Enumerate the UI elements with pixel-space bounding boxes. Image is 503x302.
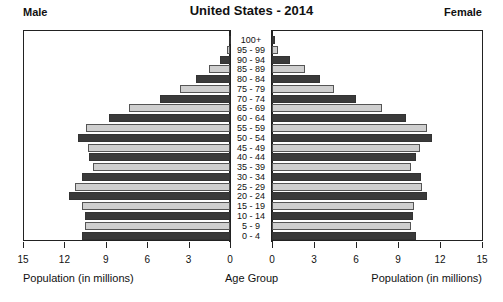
male-bar [93, 163, 230, 171]
male-bar [180, 85, 230, 93]
male-bar [88, 144, 230, 152]
male-bar [220, 56, 230, 64]
female-bar [272, 104, 382, 112]
male-bar [85, 212, 230, 220]
age-group-label: 80 - 84 [231, 74, 271, 84]
age-group-label: 45 - 49 [231, 143, 271, 153]
x-tick-label: 12 [52, 254, 76, 265]
x-tick [189, 242, 190, 248]
age-group-label: 95 - 99 [231, 45, 271, 55]
x-tick-label: 12 [428, 254, 452, 265]
male-bar [196, 75, 231, 83]
female-bar [272, 232, 416, 240]
age-group-label: 0 - 4 [231, 231, 271, 241]
male-bar [89, 153, 230, 161]
male-bar [109, 114, 230, 122]
female-bar [272, 46, 278, 54]
age-group-label: 55 - 59 [231, 123, 271, 133]
female-bar [272, 173, 421, 181]
female-bar [272, 95, 356, 103]
female-bar [272, 192, 427, 200]
chart-title: United States - 2014 [0, 3, 503, 18]
age-group-label: 35 - 39 [231, 162, 271, 172]
age-group-label: 60 - 64 [231, 113, 271, 123]
age-group-label: 65 - 69 [231, 103, 271, 113]
x-tick [23, 242, 24, 248]
male-bar [78, 134, 230, 142]
x-tick [482, 242, 483, 248]
x-tick [356, 242, 357, 248]
x-tick [106, 242, 107, 248]
age-group-label: 75 - 79 [231, 84, 271, 94]
male-bar [82, 232, 230, 240]
x-tick-label: 9 [94, 254, 118, 265]
x-tick-label: 6 [344, 254, 368, 265]
female-bar [272, 65, 305, 73]
x-tick [398, 242, 399, 248]
age-group-label: 20 - 24 [231, 191, 271, 201]
age-group-label: 10 - 14 [231, 211, 271, 221]
x-tick [314, 242, 315, 248]
female-bar [272, 212, 413, 220]
female-bar [272, 153, 416, 161]
x-tick-label: 0 [218, 254, 242, 265]
male-bar [69, 192, 230, 200]
age-group-label: 15 - 19 [231, 201, 271, 211]
female-bar [272, 202, 414, 210]
age-group-label: 25 - 29 [231, 182, 271, 192]
male-bar [75, 183, 230, 191]
male-bar [82, 173, 230, 181]
male-label: Male [23, 6, 47, 18]
x-axis-label-center: Age Group [225, 272, 278, 284]
x-tick-label: 3 [177, 254, 201, 265]
female-bar [272, 222, 411, 230]
female-bar [272, 124, 427, 132]
age-group-label: 50 - 54 [231, 133, 271, 143]
x-tick [440, 242, 441, 248]
age-group-label: 90 - 94 [231, 55, 271, 65]
age-group-label: 85 - 89 [231, 64, 271, 74]
x-tick [147, 242, 148, 248]
x-tick [272, 242, 273, 248]
male-bar [86, 124, 230, 132]
female-bar [272, 56, 290, 64]
male-bar [209, 65, 230, 73]
female-bar [272, 163, 411, 171]
x-tick [230, 242, 231, 248]
male-bar [129, 104, 230, 112]
age-group-label: 30 - 34 [231, 172, 271, 182]
male-bar [82, 202, 230, 210]
age-group-label: 40 - 44 [231, 152, 271, 162]
female-bar [272, 36, 275, 44]
x-axis-label-female: Population (in millions) [371, 272, 482, 284]
x-tick-label: 0 [260, 254, 284, 265]
x-tick-label: 9 [386, 254, 410, 265]
male-bar [85, 222, 230, 230]
x-tick-label: 15 [470, 254, 494, 265]
age-group-label: 100+ [231, 35, 271, 45]
x-axis-label-male: Population (in millions) [23, 272, 134, 284]
age-group-label: 70 - 74 [231, 94, 271, 104]
age-group-label: 5 - 9 [231, 221, 271, 231]
female-bar [272, 85, 334, 93]
female-bar [272, 144, 420, 152]
female-bar [272, 183, 422, 191]
male-bar [160, 95, 230, 103]
male-bar [227, 46, 230, 54]
female-bar [272, 134, 432, 142]
x-tick-label: 6 [135, 254, 159, 265]
female-bar [272, 75, 320, 83]
x-tick-label: 15 [11, 254, 35, 265]
x-tick [64, 242, 65, 248]
female-bar [272, 114, 406, 122]
female-label: Female [444, 6, 482, 18]
x-tick-label: 3 [302, 254, 326, 265]
